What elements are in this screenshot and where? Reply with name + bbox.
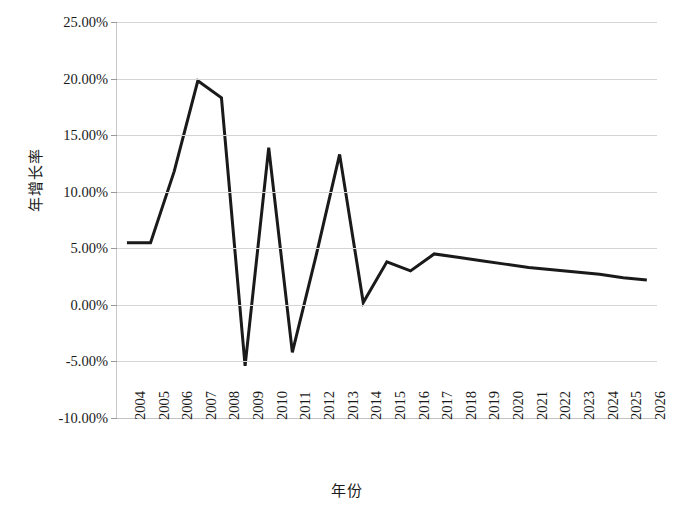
y-axis-tick-mark: [111, 248, 117, 249]
x-axis-tick-label: 2014: [369, 391, 384, 420]
gridline: [117, 22, 657, 23]
growth-rate-line-chart: 年增长率 25.00%20.00%15.00%10.00%5.00%0.00%-…: [0, 0, 693, 506]
x-axis-tick-label: 2019: [487, 391, 502, 420]
y-axis-tick-label: 0.00%: [26, 298, 108, 313]
y-axis-tick-label: 5.00%: [26, 241, 108, 256]
x-axis-tick-label: 2011: [298, 392, 313, 420]
x-axis-tick-label: 2004: [133, 391, 148, 420]
y-axis-tick-label: 25.00%: [26, 15, 108, 30]
y-axis-tick-mark: [111, 79, 117, 80]
y-axis-tick-mark: [111, 361, 117, 362]
y-axis-tick-label: -5.00%: [26, 354, 108, 369]
y-axis-tick-label: 10.00%: [26, 185, 108, 200]
plot-area: [117, 22, 657, 418]
gridline: [117, 135, 657, 136]
y-axis-tick-mark: [111, 305, 117, 306]
x-axis-tick-label: 2020: [511, 391, 526, 420]
y-axis-tick-label: 15.00%: [26, 128, 108, 143]
x-axis-tick-label: 2009: [251, 391, 266, 420]
x-axis-tick-label: 2023: [582, 391, 597, 420]
x-axis-tick-label: 2010: [275, 391, 290, 420]
y-axis-tick-mark: [111, 418, 117, 419]
y-axis-tick-label: -10.00%: [26, 411, 108, 426]
x-axis-tick-label: 2024: [606, 391, 621, 420]
x-axis-tick-label: 2025: [629, 391, 644, 420]
y-axis-tick-label: 20.00%: [26, 72, 108, 87]
x-axis-tick-label: 2012: [322, 391, 337, 420]
x-axis-tick-label: 2006: [180, 391, 195, 420]
gridline: [117, 248, 657, 249]
y-axis-tick-mark: [111, 22, 117, 23]
x-axis-tick-label: 2018: [464, 391, 479, 420]
x-axis-tick-label: 2013: [346, 391, 361, 420]
gridline: [117, 361, 657, 362]
series-line-group: [117, 22, 657, 418]
x-axis-tick-label: 2016: [417, 391, 432, 420]
x-axis-tick-label: 2026: [653, 391, 668, 420]
x-axis-tick-label: 2015: [393, 391, 408, 420]
x-axis-tick-label: 2007: [204, 391, 219, 420]
x-axis-tick-label: 2008: [227, 391, 242, 420]
x-axis-tick-labels: 2004200520062007200820092010201120122013…: [117, 420, 657, 480]
gridline: [117, 192, 657, 193]
x-axis-tick-label: 2017: [440, 391, 455, 420]
x-axis-tick-label: 2022: [558, 391, 573, 420]
gridline: [117, 418, 657, 419]
x-axis-tick-label: 2005: [157, 391, 172, 420]
x-axis-tick-label: 2021: [535, 391, 550, 420]
gridline: [117, 79, 657, 80]
y-axis-tick-mark: [111, 192, 117, 193]
x-axis-title: 年份: [0, 484, 693, 499]
y-axis-tick-mark: [111, 135, 117, 136]
series-line-annual-growth-rate: [127, 81, 647, 366]
y-axis-tick-labels: 25.00%20.00%15.00%10.00%5.00%0.00%-5.00%…: [26, 0, 108, 440]
gridline: [117, 305, 657, 306]
